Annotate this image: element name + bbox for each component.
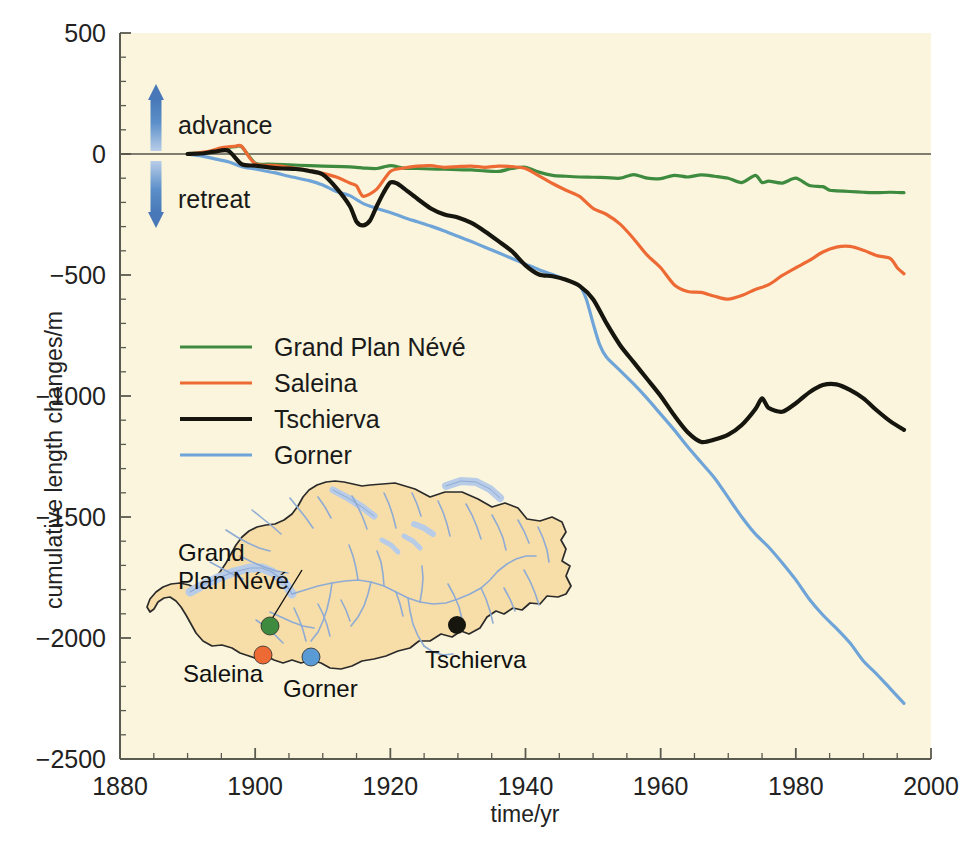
x-tick-label: 1980 [768,772,824,800]
glacier-length-change-figure: 18801900192019401960198020005000−500−100… [0,0,976,846]
y-tick-label: −2000 [36,624,106,652]
legend-label-1: Saleina [274,369,357,397]
retreat-label: retreat [178,185,250,213]
y-axis-title: cumulative length changes/m [41,311,67,609]
map-label-gorner: Gorner [283,675,358,702]
y-tick-label: 500 [64,19,106,47]
x-tick-label: 1940 [498,772,554,800]
y-tick-label: −2500 [36,745,106,773]
advance-label: advance [178,111,273,139]
y-tick-label: 0 [92,140,106,168]
map-marker-gorner [302,648,320,666]
map-label-tschierva: Tschierva [425,646,527,673]
x-axis-title: time/yr [491,801,560,827]
x-tick-label: 1960 [633,772,689,800]
x-tick-label: 1920 [363,772,419,800]
chart-canvas: 18801900192019401960198020005000−500−100… [0,0,976,846]
map-label-grand-line2: Plan Névé [178,567,289,594]
legend-label-0: Grand Plan Névé [274,333,466,361]
x-tick-label: 2000 [903,772,959,800]
map-marker-tschierva [448,616,466,634]
map-label-saleina: Saleina [183,660,264,687]
map-label-grand-line1: Grand [178,539,245,566]
y-tick-label: −500 [50,261,106,289]
legend-label-2: Tschierva [274,405,380,433]
x-tick-label: 1880 [92,772,148,800]
legend-label-3: Gorner [274,441,352,469]
x-tick-label: 1900 [227,772,283,800]
